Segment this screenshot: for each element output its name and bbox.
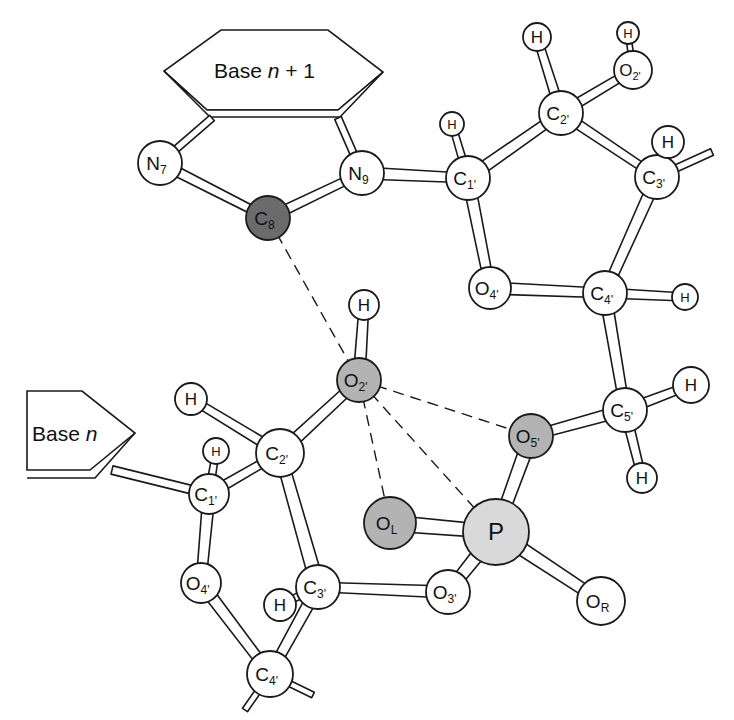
rna-transesterification-diagram: Base n + 1 Base n N7N9C8C1'HC2'HO2'HC3'H…	[0, 0, 734, 720]
atom-label: H	[623, 26, 632, 41]
atom-N9: N9	[340, 151, 384, 195]
hbond-C8-O2p_low	[268, 218, 359, 380]
atom-label: H	[662, 133, 674, 152]
atom-label: H	[185, 390, 197, 409]
atom-OR: OR	[577, 577, 625, 625]
atom-O3p: O3'	[426, 570, 470, 614]
atom-H_C3p_top: H	[652, 126, 684, 158]
atom-label: H	[680, 290, 689, 305]
atom-O2p_low: O2'	[337, 358, 381, 402]
atom-label: H	[685, 376, 697, 395]
hydrogen-bond-lines	[268, 218, 531, 532]
atom-O4p_top: O4'	[469, 267, 511, 309]
atom-H_C4p_top: H	[672, 284, 698, 310]
atom-C1p_top: C1'	[446, 156, 490, 200]
atom-H_C3p_low: H	[264, 589, 296, 621]
atom-H_O2p_low: H	[349, 290, 379, 320]
atom-label: H	[636, 469, 648, 488]
atom-C5p: C5'	[603, 388, 647, 432]
atom-O5p: O5'	[509, 414, 553, 458]
atom-H_C2p_top: H	[523, 23, 551, 51]
atom-C2p_top: C2'	[539, 91, 583, 135]
atom-label: H	[447, 117, 456, 132]
atom-C3p_low: C3'	[296, 565, 340, 609]
atom-H_O2p_top: H	[617, 22, 639, 44]
atom-H_C5p_b: H	[627, 463, 657, 493]
base-n-label: Base n	[32, 422, 97, 445]
atom-H_C5p_a: H	[673, 367, 709, 403]
atom-label: H	[358, 296, 370, 315]
atom-N7: N7	[138, 141, 182, 185]
atom-O4p_low: O4'	[181, 563, 221, 603]
base-n-plus-1-label: Base n + 1	[214, 59, 315, 82]
atom-C4p_low: C4'	[247, 651, 293, 697]
atom-label: P	[488, 518, 504, 545]
atom-O2p_top: O2'	[614, 51, 652, 89]
atom-label: H	[531, 28, 543, 47]
atom-H_C2p_low: H	[175, 383, 207, 415]
base-n: Base n	[27, 391, 135, 478]
atom-C1p_low: C1'	[189, 474, 229, 514]
atom-label: H	[274, 596, 286, 615]
atom-C8: C8	[246, 196, 290, 240]
atom-C3p_top: C3'	[635, 155, 679, 199]
atom-C2p_low: C2'	[256, 429, 304, 477]
atom-P: P	[463, 499, 529, 565]
atom-label: H	[211, 444, 220, 459]
atom-C4p_top: C4'	[583, 271, 627, 315]
atom-H_C1p_low: H	[203, 438, 229, 464]
base-n-plus-1: Base n + 1	[164, 30, 383, 117]
atom-H_C1p_top: H	[440, 112, 464, 136]
atom-OL: OL	[364, 497, 416, 549]
